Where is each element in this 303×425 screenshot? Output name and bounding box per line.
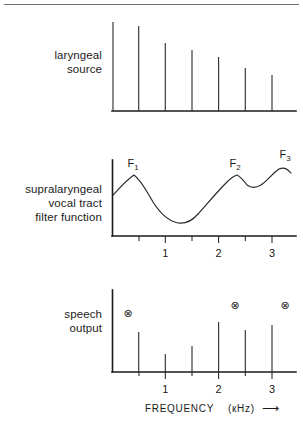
x-tick-label: 1 [162, 383, 168, 395]
formant-subscript: 3 [286, 154, 291, 163]
axis-caption-frequency: FREQUENCY [145, 403, 214, 414]
plot-laryngeal-source [0, 0, 303, 125]
x-tick-label: 1 [162, 247, 168, 259]
axis-caption-unit: (кHz) [228, 403, 255, 414]
x-tick-label: 3 [269, 383, 275, 395]
axis-caption-arrow: ⟶ [262, 401, 280, 415]
filter-function-curve [113, 168, 291, 223]
formant-label-f3: F3 [279, 148, 291, 163]
formant-subscript: 1 [134, 163, 139, 172]
figure-root: laryngeal source supralaryngeal vocal tr… [0, 0, 303, 425]
panel-supralaryngeal-filter: supralaryngeal vocal tract filter functi… [0, 140, 303, 265]
formant-subscript: 2 [236, 163, 241, 172]
panel-speech-output: speech output 1 2 3 ⊗ ⊗ [0, 280, 303, 425]
formant-label-f1: F1 [127, 157, 139, 172]
formant-label-f2: F2 [229, 157, 241, 172]
formant-marker-icon: ⊗ [123, 307, 132, 320]
x-tick-label: 3 [269, 247, 275, 259]
formant-marker-icon: ⊗ [280, 299, 289, 312]
plot-supralaryngeal-filter: 1 2 3 F1 F2 F3 [0, 140, 303, 265]
panel-laryngeal-source: laryngeal source [0, 0, 303, 125]
x-tick-label: 2 [216, 383, 222, 395]
formant-marker-icon: ⊗ [230, 299, 239, 312]
x-tick-label: 2 [216, 247, 222, 259]
